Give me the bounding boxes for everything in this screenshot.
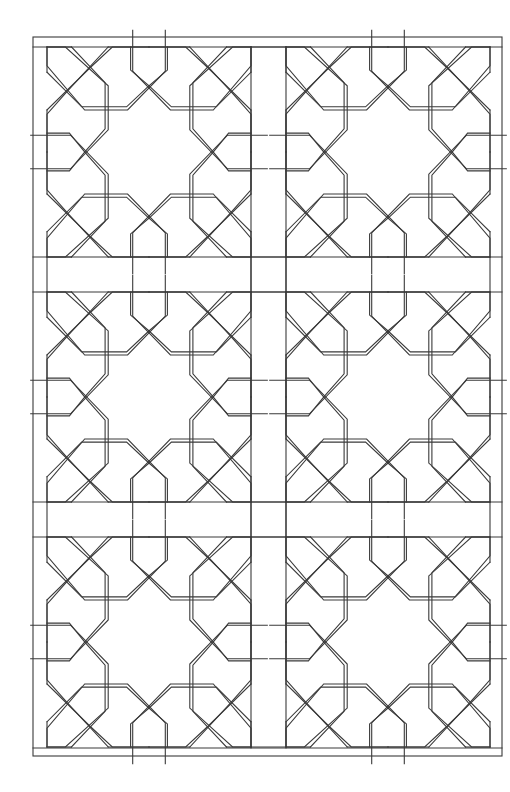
- pattern-tile: [31, 275, 268, 519]
- pattern-tile: [31, 30, 268, 274]
- pattern-tiles: [31, 30, 507, 764]
- pattern-tile: [270, 275, 507, 519]
- outer-frame: [33, 37, 502, 756]
- pattern-tile: [31, 520, 268, 764]
- pattern-tile: [270, 30, 507, 274]
- pattern-drawing: [0, 0, 510, 792]
- pattern-tile: [270, 520, 507, 764]
